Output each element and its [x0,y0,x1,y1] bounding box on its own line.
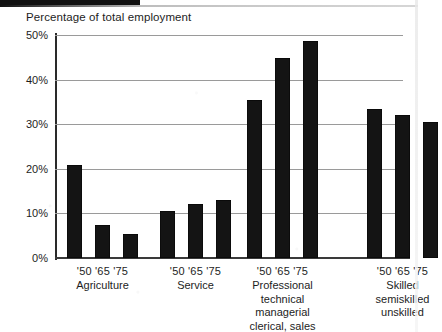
bar-service-50 [160,211,175,258]
bar-skilled-75 [423,122,438,258]
scan-artifact-top-line [0,5,418,7]
bar-agriculture-75 [123,234,138,258]
bar-professional-50 [247,100,262,258]
bar-service-65 [188,204,203,258]
y-axis-line [55,33,57,260]
bar-professional-65 [275,58,290,258]
bar-professional-75 [303,41,318,258]
chart-title: Percentage of total employment [26,11,191,23]
group-name-line: semiskilled [333,293,442,306]
gridline-50% [55,35,403,36]
group-name-line: clerical, sales [213,320,353,332]
group-name-line: unskilled [333,306,442,319]
bar-service-75 [216,200,231,258]
y-axis-tick-label-20%: 20% [26,163,48,175]
gridline-30% [55,124,403,125]
y-axis-tick-label-40%: 40% [26,74,48,86]
bar-agriculture-50 [67,165,82,258]
y-axis-tick-label-0%: 0% [32,252,48,264]
group-name-line: managerial [213,306,353,319]
group-name-line: technical [213,293,353,306]
group-years-skilled: '50 '65 '75 [333,265,442,278]
group-name-line: Skilled [333,279,442,292]
scan-artifact-right-edge [415,0,418,332]
y-axis-tick-label-30%: 30% [26,118,48,130]
bar-agriculture-65 [95,225,110,258]
group-label-skilled: '50 '65 '75Skilledsemiskilledunskilled [333,265,442,320]
group-years-professional: '50 '65 '75 [213,265,353,278]
bar-skilled-65 [395,115,410,258]
group-name-line: Professional [213,279,353,292]
gridline-20% [55,169,403,170]
y-axis-tick-label-50%: 50% [26,29,48,41]
y-axis-tick-label-10%: 10% [26,207,48,219]
bar-skilled-50 [367,109,382,258]
group-label-professional: '50 '65 '75Professionaltechnicalmanageri… [213,265,353,332]
gridline-40% [55,80,403,81]
bar-chart-plot-area: 0%10%20%30%40%50% [55,35,403,258]
